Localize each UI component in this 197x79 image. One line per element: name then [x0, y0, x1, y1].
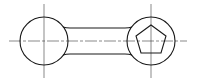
bar-bottom-edge	[63, 54, 132, 55]
bar-top-edge	[63, 27, 132, 28]
link-drawing: Connecting link with two circular bosses…	[0, 0, 197, 79]
centerlines	[9, 4, 187, 78]
